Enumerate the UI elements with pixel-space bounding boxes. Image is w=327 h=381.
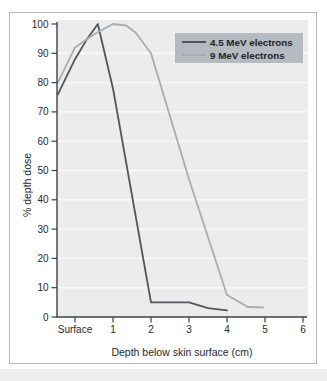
x-axis-title: Depth below skin surface (cm) — [111, 346, 252, 358]
y-axis-title: % depth dose — [21, 153, 33, 217]
depth-dose-chart: 0102030405060708090100 Surface123456 % d… — [0, 0, 327, 381]
y-tick-label: 40 — [37, 194, 49, 205]
legend: 4.5 MeV electrons9 MeV electrons — [175, 33, 303, 63]
y-tick-label: 80 — [37, 77, 49, 88]
y-tick-label: 60 — [37, 136, 49, 147]
y-tick-label: 30 — [37, 224, 49, 235]
page-bottom-strip — [0, 369, 327, 381]
y-tick-label: 20 — [37, 253, 49, 264]
y-tick-label: 10 — [37, 282, 49, 293]
x-tick-label: 3 — [186, 324, 192, 335]
legend-label: 9 MeV electrons — [210, 50, 285, 61]
y-tick-label: 90 — [37, 48, 49, 59]
x-tick-label: 2 — [148, 324, 154, 335]
x-tick-label: 4 — [224, 324, 230, 335]
y-tick-label: 100 — [32, 19, 49, 30]
x-tick-label: 1 — [110, 324, 116, 335]
y-tick-label: 0 — [43, 312, 49, 323]
x-tick-label: 6 — [300, 324, 306, 335]
legend-label: 4.5 MeV electrons — [210, 37, 293, 48]
x-tick-label: Surface — [58, 324, 93, 335]
y-tick-label: 70 — [37, 106, 49, 117]
x-tick-label: 5 — [262, 324, 268, 335]
plot-area — [57, 20, 308, 317]
figure-page: 0102030405060708090100 Surface123456 % d… — [0, 0, 327, 381]
y-tick-label: 50 — [37, 165, 49, 176]
